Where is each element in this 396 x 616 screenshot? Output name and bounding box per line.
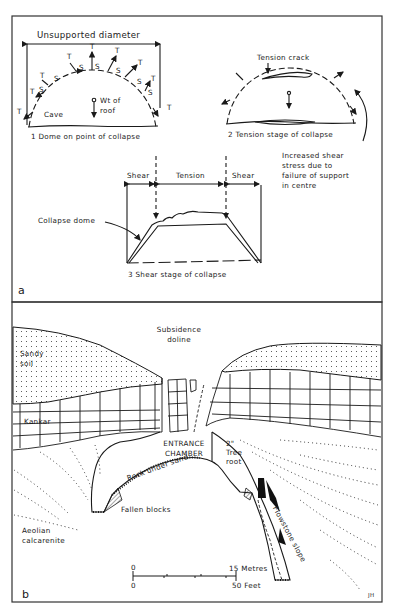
diameter-label: Unsupported diameter xyxy=(37,31,140,40)
panel-b-label: b xyxy=(22,589,29,600)
stress-s-7: S xyxy=(54,75,59,82)
stress-t-9: T xyxy=(17,108,22,115)
fallen-blocks xyxy=(104,488,122,512)
stress-t-3: T xyxy=(138,59,143,66)
kankar-label: Kankar xyxy=(24,418,51,425)
cave-label: Cave xyxy=(44,111,63,118)
kankar-blocks xyxy=(168,379,204,432)
stress-t-8: T xyxy=(30,88,35,95)
doline-label: Subsidence doline xyxy=(157,325,201,345)
kankar-right xyxy=(206,370,381,437)
sandy-soil-right xyxy=(222,343,381,380)
tension-crack-label: Tension crack xyxy=(257,54,309,61)
stress-t-7: T xyxy=(40,72,45,79)
scale-metric-zero: 0 xyxy=(131,564,136,571)
scale-metric-max: 15 Metres xyxy=(229,565,268,572)
tree-root-label: 2" Tree root xyxy=(226,439,242,466)
collapse-dome-label: Collapse dome xyxy=(38,217,95,224)
stress-s-1: S xyxy=(95,63,100,70)
stress-t-1: T xyxy=(90,43,95,50)
stress-s-8: S xyxy=(39,86,44,93)
dome-3-caption: 3 Shear stage of collapse xyxy=(128,271,226,278)
scale-bar xyxy=(133,571,236,581)
figure-canvas xyxy=(0,0,396,616)
weight-label: Wt of roof xyxy=(100,96,121,116)
shear-stress-note: Increased shear stress due to failure of… xyxy=(282,151,349,191)
stress-t-2: T xyxy=(115,47,120,54)
stress-s-3: S xyxy=(137,78,142,85)
stress-s-6: S xyxy=(79,64,84,71)
sandy-soil-label: Sandy soil xyxy=(20,349,44,369)
scale-imperial-max: 50 Feet xyxy=(232,582,261,589)
zone-shear-right: Shear xyxy=(232,172,254,179)
panel-a-label: a xyxy=(18,285,25,296)
aeolian-label: Aeolian calcarenite xyxy=(22,526,65,546)
stress-s-2: S xyxy=(116,67,121,74)
credit-initials: JH xyxy=(368,593,374,599)
calcarenite-strata xyxy=(14,440,378,590)
zone-shear-left: Shear xyxy=(127,172,149,179)
fallen-blocks-right xyxy=(244,488,252,500)
zone-tension: Tension xyxy=(176,172,205,179)
dome-1-caption: 1 Dome on point of collapse xyxy=(31,133,140,140)
scale-imperial-zero: 0 xyxy=(131,582,136,589)
fallen-blocks-label: Fallen blocks xyxy=(121,506,171,513)
stress-s-4: S xyxy=(148,89,153,96)
dome-2-caption: 2 Tension stage of collapse xyxy=(228,131,333,138)
stress-t-6: T xyxy=(67,53,72,60)
stress-t-4: T xyxy=(151,75,156,82)
stress-t-5: T xyxy=(167,104,172,111)
